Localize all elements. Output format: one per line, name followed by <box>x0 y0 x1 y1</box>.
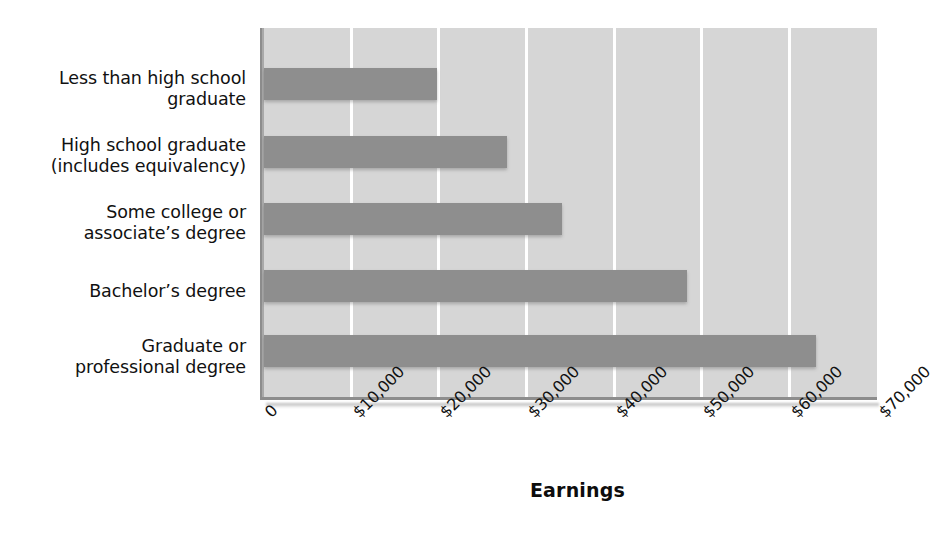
category-label-bachelors-degree: Bachelor’s degree <box>8 281 246 302</box>
category-axis-labels: Less than high school graduate High scho… <box>8 28 254 397</box>
xtick-label-70000: $70,000 <box>875 362 934 421</box>
category-label-some-college: Some college or associate’s degree <box>8 202 246 244</box>
x-axis-title: Earnings <box>0 479 907 501</box>
category-label-high-school-graduate: High school graduate (includes equivalen… <box>8 135 246 177</box>
bar-high-school-graduate <box>264 136 507 168</box>
category-label-less-than-high-school: Less than high school graduate <box>8 68 246 110</box>
plot-area <box>262 28 877 397</box>
bar-less-than-high-school <box>264 68 437 100</box>
bar-graduate-degree <box>264 335 816 367</box>
x-axis-line <box>260 397 877 400</box>
bar-bachelors-degree <box>264 270 687 302</box>
bar-some-college <box>264 203 562 235</box>
category-label-graduate-degree: Graduate or professional degree <box>8 336 246 378</box>
x-axis-title-text: Earnings <box>530 479 625 501</box>
